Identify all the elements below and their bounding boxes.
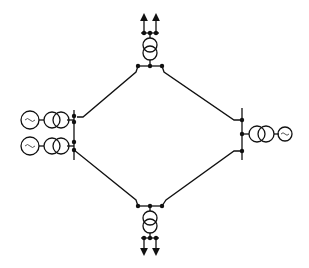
transformer-icon [143,38,157,60]
bottom-substation [136,204,164,252]
generator-icon [21,137,39,155]
right-plant [240,108,292,160]
generator-icon [21,111,39,129]
transformer-icon [249,126,274,142]
left-plant [21,110,76,160]
top-feeder-arrows [144,17,156,33]
line-top-left [77,66,138,117]
line-right-bottom [162,151,242,206]
transformer-icon [44,112,69,128]
line-left-bottom [74,150,138,206]
transformer-icon [44,138,69,154]
top-substation [136,17,164,68]
transformer-icon [143,211,157,233]
power-network-diagram [0,0,309,268]
line-top-right [162,66,242,120]
generator-icon [278,127,292,141]
